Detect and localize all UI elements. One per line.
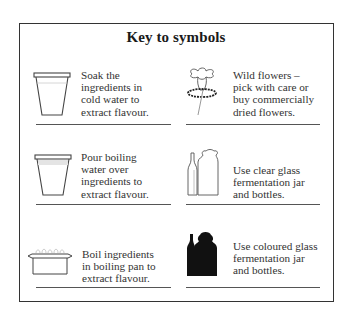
divider [186,124,320,125]
clear-glass-jar-and-bottle-icon [185,148,219,196]
coloured-glass-jar-and-bottle-icon [186,230,218,277]
entry-text: Soak the ingredients in cold water to ex… [81,69,149,118]
cup-cold-water-icon [33,71,71,117]
wild-flower-icon [184,66,220,116]
entry-text: Use coloured glass fermentation jar and … [233,240,318,277]
entry-text: Pour boiling water over ingredients to e… [81,151,149,200]
entry-text: Wild flowers – pick with care or buy com… [233,69,314,118]
key-title: Key to symbols [0,29,352,46]
divider [186,287,320,288]
divider [36,204,171,205]
divider [186,204,320,205]
cup-boiling-water-icon [34,153,72,196]
divider [36,287,171,288]
entry-text: Boil ingredients in boiling pan to extra… [82,248,156,285]
entry-text: Use clear glass fermentation jar and bot… [233,164,305,201]
divider [36,124,171,125]
boiling-pan-icon [26,245,74,275]
